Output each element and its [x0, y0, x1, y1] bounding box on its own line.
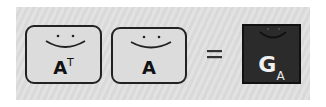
matrix-a-transpose-box: AT [25, 25, 102, 84]
matrix-a-transpose-label: AT [27, 57, 100, 78]
gram-matrix-box: GA [242, 24, 301, 84]
equals-sign-icon [205, 47, 225, 61]
gram-matrix-label: GA [244, 52, 299, 77]
smile-face-icon [113, 29, 189, 59]
smile-face-icon [27, 27, 104, 57]
matrix-a-box: A [111, 27, 187, 84]
smile-face-icon [244, 26, 303, 46]
matrix-a-label: A [113, 57, 185, 78]
